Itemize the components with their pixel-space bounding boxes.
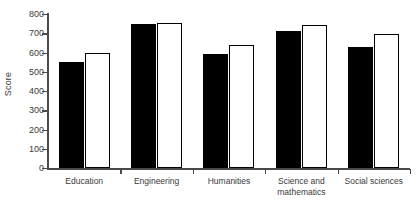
y-axis-tick-mark (42, 33, 48, 34)
bar-filled (131, 24, 156, 168)
x-axis-tick-mark (338, 169, 339, 174)
y-axis-tick-mark (42, 91, 48, 92)
bar-group (193, 14, 265, 168)
bar-group (265, 14, 337, 168)
x-axis-category-label: Humanities (193, 176, 265, 187)
x-axis-category-label: Social sciences (338, 176, 410, 187)
bar-chart: Score 0100200300400500600700800 Educatio… (0, 0, 416, 209)
y-axis-tick-label: 200 (14, 125, 44, 134)
y-axis-tick-label: 800 (14, 10, 44, 19)
y-axis-tick-mark (42, 130, 48, 131)
x-axis-category-label: Education (48, 176, 120, 187)
y-axis-tick-mark (42, 72, 48, 73)
bar-group (338, 14, 410, 168)
y-axis-title-text: Score (3, 72, 13, 97)
y-axis-tick-label: 0 (14, 164, 44, 173)
plot-area (48, 14, 410, 168)
y-axis-tick-label: 400 (14, 87, 44, 96)
y-axis-tick-mark (42, 149, 48, 150)
x-axis-line (47, 168, 410, 170)
y-axis-tick-label: 300 (14, 106, 44, 115)
bar-open (374, 34, 399, 168)
bar-filled (276, 31, 301, 168)
y-axis-tick-mark (42, 53, 48, 54)
x-axis-tick-mark (265, 169, 266, 174)
y-axis-tick-label: 600 (14, 48, 44, 57)
x-axis-tick-mark (193, 169, 194, 174)
x-axis-category-label: Science and mathematics (265, 176, 337, 198)
x-axis-category-labels: EducationEngineeringHumanitiesScience an… (48, 176, 410, 206)
bar-filled (59, 62, 84, 168)
y-axis-tick-mark (42, 110, 48, 111)
x-axis-category-label: Engineering (120, 176, 192, 187)
bar-group (120, 14, 192, 168)
y-axis-tick-label: 100 (14, 144, 44, 153)
bar-open (85, 53, 110, 168)
bar-group (48, 14, 120, 168)
bar-filled (203, 54, 228, 168)
x-axis-tick-mark (410, 169, 411, 174)
y-axis-tick-mark (42, 14, 48, 15)
y-axis-tick-label: 500 (14, 67, 44, 76)
bar-open (157, 23, 182, 168)
bar-open (302, 25, 327, 168)
y-axis-tick-label: 700 (14, 29, 44, 38)
y-axis-tick-labels: 0100200300400500600700800 (14, 14, 44, 168)
x-axis-tick-mark (120, 169, 121, 174)
bar-open (229, 45, 254, 168)
y-axis-tick-mark (42, 168, 48, 169)
bar-filled (348, 47, 373, 168)
